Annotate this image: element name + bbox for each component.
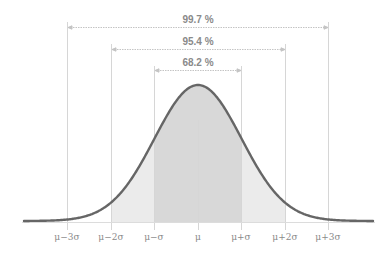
tick-label-minus-1sigma: μ−σ — [144, 232, 164, 242]
tick-label-minus-2sigma: μ−2σ — [98, 232, 123, 242]
guide-lines — [68, 22, 329, 230]
normal-distribution-diagram: 99.7 % 95.4 % 68.2 % μ−3σ μ−2σ μ−σ μ μ+σ… — [0, 0, 392, 253]
label-682-percent: 68.2 % — [182, 57, 213, 68]
x-axis-tick-labels: μ−3σ μ−2σ μ−σ μ μ+σ μ+2σ μ+3σ — [54, 232, 340, 242]
interval-954-arrow — [112, 48, 285, 51]
label-997-percent: 99.7 % — [182, 14, 213, 25]
interval-682-arrow — [155, 69, 241, 72]
label-954-percent: 95.4 % — [182, 36, 213, 47]
tick-label-mu: μ — [195, 232, 201, 242]
tick-label-plus-2sigma: μ+2σ — [272, 232, 297, 242]
interval-997-arrow — [68, 26, 328, 29]
tick-label-plus-3sigma: μ+3σ — [315, 232, 340, 242]
tick-label-minus-3sigma: μ−3σ — [54, 232, 79, 242]
tick-label-plus-1sigma: μ+σ — [231, 232, 251, 242]
